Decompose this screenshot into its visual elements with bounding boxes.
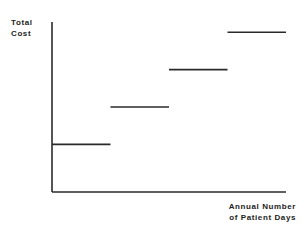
- step-segments: [52, 32, 286, 144]
- plot-area: [0, 0, 305, 228]
- x-axis-label: Annual Number of Patient Days: [200, 201, 296, 223]
- step-cost-chart: Total Cost Annual Number of Patient Days: [0, 0, 305, 228]
- x-axis-label-line2: of Patient Days: [200, 212, 296, 223]
- x-axis-label-line1: Annual Number: [200, 201, 296, 212]
